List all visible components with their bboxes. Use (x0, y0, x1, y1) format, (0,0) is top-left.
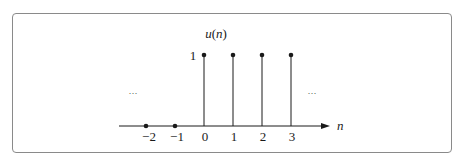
ellipsis-right: ··· (308, 88, 317, 98)
sample-dot-n-minus-2 (144, 124, 149, 129)
x-axis-arrow-icon (321, 123, 330, 129)
stem-n-2 (260, 53, 265, 126)
sample-dot-n-minus-1 (173, 124, 178, 129)
x-tick-label: 3 (289, 129, 296, 144)
x-axis-label: n (337, 118, 344, 133)
plot-title: u(n) (205, 26, 227, 41)
y-tick-label-1: 1 (190, 48, 197, 63)
ellipsis-left: ··· (129, 88, 138, 98)
stem-n-3 (289, 53, 294, 126)
stem-n-1 (231, 53, 236, 126)
x-tick-label: 0 (202, 129, 209, 144)
x-tick-label: 1 (231, 129, 238, 144)
x-tick-label: −2 (142, 129, 156, 144)
stem-n-0 (202, 53, 207, 126)
x-tick-label: −1 (170, 129, 184, 144)
x-tick-label: 2 (260, 129, 267, 144)
unit-step-stem-plot: u(n) 1 n −2 −1 0 1 2 3 ··· ··· (0, 0, 461, 161)
